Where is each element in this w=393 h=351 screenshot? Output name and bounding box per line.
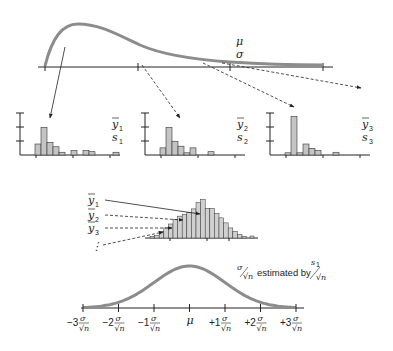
histogram-bar xyxy=(237,235,242,238)
sample-sd-label: s xyxy=(237,131,243,144)
histogram-bar xyxy=(168,224,173,238)
sample-histogram-3: y3s3 xyxy=(266,113,373,158)
sample-sd-label: s xyxy=(112,131,118,144)
histogram-bar xyxy=(196,203,201,238)
svg-text:2: 2 xyxy=(244,125,248,132)
axis-tick-label: μ xyxy=(187,314,194,327)
svg-text:−1: −1 xyxy=(138,317,150,328)
svg-text:√n: √n xyxy=(243,272,253,281)
svg-text:σ: σ xyxy=(80,314,86,323)
svg-text:+2: +2 xyxy=(245,317,257,328)
population-distribution: μ σ xyxy=(38,24,333,71)
svg-text:1: 1 xyxy=(316,261,320,268)
svg-text:−3: −3 xyxy=(67,317,79,328)
svg-text:σ: σ xyxy=(237,263,243,272)
histogram-bar xyxy=(210,208,215,238)
histogram-bar xyxy=(233,231,238,238)
histogram-bar xyxy=(309,148,315,155)
axis-tick-label: −3σ√n xyxy=(67,314,89,333)
sample-mean-label-2: y xyxy=(87,209,95,222)
histogram-bar xyxy=(160,148,166,155)
svg-text:√n: √n xyxy=(316,273,326,282)
svg-text:√n: √n xyxy=(79,324,89,333)
histogram-bar xyxy=(35,144,41,155)
histogram-bar xyxy=(208,152,214,155)
histogram-bar xyxy=(291,117,297,156)
sample-histogram-2: y2s2 xyxy=(141,113,248,158)
svg-text:1: 1 xyxy=(95,201,99,208)
axis-tick-label: +2σ√n xyxy=(245,314,267,333)
svg-text:1: 1 xyxy=(119,138,123,145)
sampling-distribution-diagram: μ σ y1s1y2s2y3s3 y1y2y3⋮ −3σ√n−2σ√n−1σ√n… xyxy=(0,0,393,351)
histogram-bar xyxy=(187,212,192,238)
sample-histograms: y1s1y2s2y3s3 xyxy=(16,113,373,158)
sample-sd-label: s xyxy=(362,131,368,144)
sample-mean-label: y xyxy=(236,118,244,131)
histogram-bar xyxy=(178,146,184,155)
sample-mean-label-3: y xyxy=(87,222,95,235)
histogram-bar xyxy=(333,152,339,155)
svg-text:√n: √n xyxy=(150,324,160,333)
svg-text:+3: +3 xyxy=(280,317,292,328)
sample-mean-label: y xyxy=(111,118,119,131)
histogram-bar xyxy=(303,144,309,155)
histogram-bar xyxy=(205,208,210,238)
histogram-bar xyxy=(155,235,160,238)
histogram-bar xyxy=(190,148,196,155)
population-sd-label: σ xyxy=(236,48,244,61)
histogram-bar xyxy=(41,128,47,156)
sampling-distribution-histogram: y1y2y3⋮ xyxy=(87,194,258,253)
histogram-bar xyxy=(219,218,224,238)
normal-sampling-distribution: −3σ√n−2σ√n−1σ√nμ+1σ√n+2σ√n+3σ√nσ√nestima… xyxy=(67,258,326,333)
histogram-bar xyxy=(184,153,190,155)
svg-text:σ: σ xyxy=(258,314,264,323)
histogram-bar xyxy=(172,141,178,155)
sample-mean-label: y xyxy=(361,118,369,131)
svg-text:√n: √n xyxy=(115,324,125,333)
svg-text:2: 2 xyxy=(244,138,248,145)
histogram-bar xyxy=(47,142,53,155)
histogram-bar xyxy=(53,147,59,155)
histogram-bar xyxy=(201,199,206,238)
svg-text:√n: √n xyxy=(221,324,231,333)
svg-text:√n: √n xyxy=(257,324,267,333)
sample-mean-label-1: y xyxy=(87,194,95,207)
svg-text:estimated by: estimated by xyxy=(257,267,311,278)
svg-text:3: 3 xyxy=(95,229,99,236)
svg-text:σ: σ xyxy=(293,314,299,323)
svg-text:σ: σ xyxy=(222,314,228,323)
axis-tick-label: +3σ√n xyxy=(280,314,302,333)
svg-text:2: 2 xyxy=(95,216,99,223)
svg-text:σ: σ xyxy=(151,314,157,323)
sampling-arrows xyxy=(50,47,361,118)
histogram-bar xyxy=(89,152,95,155)
histogram-bar xyxy=(297,153,303,155)
svg-text:σ: σ xyxy=(116,314,122,323)
histogram-bar xyxy=(228,228,233,238)
histogram-bar xyxy=(150,236,155,238)
histogram-bar xyxy=(159,231,164,238)
svg-text:s: s xyxy=(311,258,315,267)
histogram-bar xyxy=(71,151,77,155)
histogram-bar xyxy=(59,152,65,155)
histogram-bar xyxy=(173,220,178,238)
histogram-bar xyxy=(285,153,291,155)
svg-text:−2: −2 xyxy=(103,317,115,328)
svg-text:+1: +1 xyxy=(209,317,221,328)
svg-text:√n: √n xyxy=(292,324,302,333)
population-mean-label: μ xyxy=(236,35,243,48)
ellipsis-icon: ⋮ xyxy=(91,240,102,253)
svg-text:3: 3 xyxy=(369,138,373,145)
svg-text:1: 1 xyxy=(119,125,123,132)
population-curve xyxy=(45,24,323,66)
svg-text:3: 3 xyxy=(369,125,373,132)
histogram-bar xyxy=(182,214,187,238)
axis-tick-label: −2σ√n xyxy=(103,314,125,333)
histogram-bar xyxy=(242,236,247,238)
histogram-bar xyxy=(214,213,219,238)
axis-tick-label: +1σ√n xyxy=(209,314,231,333)
histogram-bar xyxy=(164,228,169,238)
histogram-bar xyxy=(315,151,321,155)
histogram-bar xyxy=(224,223,229,238)
histogram-bar xyxy=(113,152,119,155)
